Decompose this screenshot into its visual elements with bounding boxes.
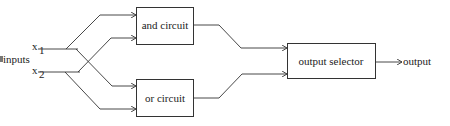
input-wires bbox=[38, 15, 136, 109]
inputs-label: inputs bbox=[0, 53, 30, 65]
svg-text:x: x bbox=[32, 40, 38, 52]
svg-text:2: 2 bbox=[39, 68, 45, 80]
output-label: output bbox=[403, 55, 431, 67]
or-circuit-box: or circuit bbox=[137, 80, 194, 117]
input-x1-label: x 1 bbox=[32, 40, 45, 56]
svg-text:and circuit: and circuit bbox=[142, 19, 189, 31]
selector-input-wires bbox=[193, 25, 287, 98]
circuit-diagram: inputs x 1 x 2 and circuit or circuit bbox=[0, 0, 450, 126]
svg-text:1: 1 bbox=[39, 44, 45, 56]
svg-text:x: x bbox=[32, 64, 38, 76]
svg-text:or circuit: or circuit bbox=[145, 92, 185, 104]
output-selector-box: output selector bbox=[288, 44, 376, 79]
and-circuit-box: and circuit bbox=[137, 8, 194, 45]
svg-text:inputs: inputs bbox=[3, 53, 30, 65]
svg-text:output selector: output selector bbox=[298, 55, 363, 67]
